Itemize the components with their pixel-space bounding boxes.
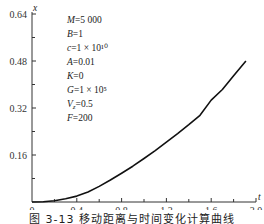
figure-caption: 图 3-13 移动距离与时间变化计算曲线	[0, 210, 264, 224]
param-g: G=1 × 10⁵	[67, 85, 107, 95]
y-axis-label: x	[32, 3, 38, 13]
line-chart: 00.40.81.21.62.00.160.320.480.64tx M=5 0…	[0, 0, 264, 210]
y-tick-label: 0.48	[10, 56, 28, 67]
y-tick-label: 0.32	[10, 103, 28, 114]
param-m: M=5 000	[66, 15, 102, 25]
parameter-annotations: M=5 000B=1c=1 × 10¹⁰A=0.01K=0G=1 × 10⁵Vz…	[66, 15, 108, 123]
axes	[32, 12, 256, 202]
data-series	[32, 61, 246, 202]
series-line	[32, 61, 246, 202]
param-a: A=0.01	[66, 57, 95, 67]
param-c: c=1 × 10¹⁰	[67, 43, 108, 53]
param-k: K=0	[66, 71, 84, 81]
x-axis-label: t	[258, 192, 261, 202]
y-tick-label: 0.64	[10, 9, 28, 20]
param-f: F=200	[66, 113, 93, 123]
param-b: B=1	[67, 29, 83, 39]
ticks: 00.40.81.21.62.00.160.320.480.64tx	[10, 3, 263, 210]
param-v: Vz=0.5	[67, 99, 93, 111]
y-tick-label: 0.16	[10, 150, 28, 161]
